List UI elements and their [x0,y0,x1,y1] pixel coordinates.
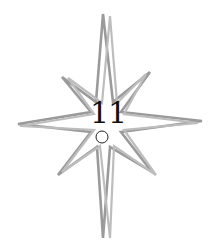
figure-canvas: 11 [0,0,216,252]
center-circle-marker [96,131,108,143]
star-number-label: 11 [0,98,216,128]
